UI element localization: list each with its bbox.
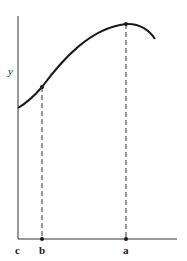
x-label-a: a: [123, 244, 129, 256]
y-axis-label: y: [7, 65, 13, 77]
x-label-c: c: [15, 244, 20, 256]
function-diagram: y c b a: [0, 0, 187, 261]
x-label-b: b: [39, 244, 45, 256]
curve-point-b: [40, 85, 44, 89]
curve-point-a-max: [124, 22, 128, 26]
function-curve: [18, 24, 155, 108]
axis-point-a: [124, 237, 128, 241]
axis-point-b: [40, 237, 44, 241]
